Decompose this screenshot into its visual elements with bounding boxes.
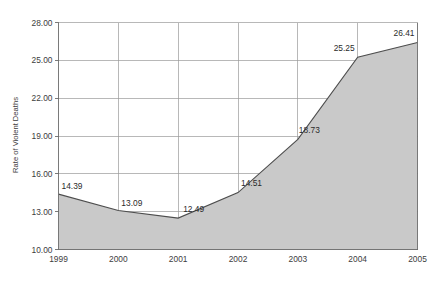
y-axis-title: Rate of Violent Deaths <box>11 97 20 173</box>
data-point-label: 25.25 <box>334 43 355 53</box>
data-point-label: 14.39 <box>62 181 83 191</box>
y-tick-label: 28.00 <box>32 18 53 28</box>
y-tick-label: 25.00 <box>32 55 53 65</box>
chart-container: 10.0013.0016.0019.0022.0025.0028.00 1999… <box>0 0 441 281</box>
y-tick-label: 13.00 <box>32 207 53 217</box>
data-point-label: 18.73 <box>299 125 320 135</box>
data-point-label: 13.09 <box>121 198 142 208</box>
data-point-label: 14.51 <box>241 178 262 188</box>
x-tick-label: 1999 <box>49 254 68 264</box>
violent-deaths-area-chart: 10.0013.0016.0019.0022.0025.0028.00 1999… <box>0 0 441 281</box>
x-tick-label: 2001 <box>169 254 188 264</box>
x-tick-label: 2000 <box>109 254 128 264</box>
y-tick-label: 16.00 <box>32 169 53 179</box>
x-tick-label: 2002 <box>229 254 248 264</box>
data-point-label: 26.41 <box>394 28 415 38</box>
data-point-label: 12.49 <box>183 204 204 214</box>
x-tick-label: 2005 <box>408 254 427 264</box>
y-tick-label: 22.00 <box>32 93 53 103</box>
y-tick-label: 19.00 <box>32 131 53 141</box>
x-tick-label: 2003 <box>289 254 308 264</box>
x-tick-label: 2004 <box>348 254 367 264</box>
